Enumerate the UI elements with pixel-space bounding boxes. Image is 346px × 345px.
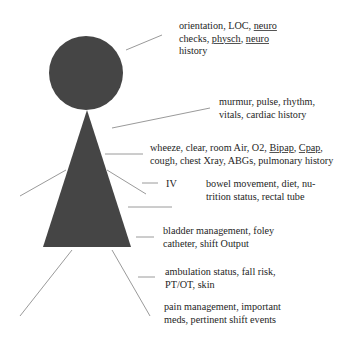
label-text: cough, chest Xray, ABGs, pulmonary histo… (150, 155, 333, 166)
label-text: IV (166, 178, 177, 189)
mobility-label-line: PT/OT, skin (165, 279, 276, 292)
label-text: bladder management, foley (163, 225, 274, 236)
mobility-label-line: ambulation status, fall risk, (165, 266, 276, 279)
pulmonary-label: wheeze, clear, room Air, O2, Bipap, Cpap… (150, 142, 333, 167)
underlined-term: Bipap (269, 142, 293, 153)
label-text: vitals, cardiac history (219, 109, 306, 120)
label-text: pain management, important (164, 301, 281, 312)
stick-figure (0, 0, 346, 345)
label-text: ambulation status, fall risk, (165, 266, 276, 277)
label-text: history (179, 45, 207, 56)
figure-right-leg (112, 250, 150, 316)
gi-label-line: bowel movement, diet, nu- (206, 178, 316, 191)
label-text: PT/OT, skin (165, 279, 215, 290)
label-text: meds, pertinent shift events (164, 314, 276, 325)
pulmonary-label-line: cough, chest Xray, ABGs, pulmonary histo… (150, 155, 333, 168)
cardiac-label-line: vitals, cardiac history (219, 109, 315, 122)
mobility-label: ambulation status, fall risk,PT/OT, skin (165, 266, 276, 291)
gu-label: bladder management, foleycatheter, shift… (163, 225, 274, 250)
figure-right-arm (107, 170, 146, 194)
figure-left-leg (20, 250, 72, 316)
neuro-label: orientation, LOC, neurochecks, physch, n… (179, 20, 277, 58)
cardiac-label: murmur, pulse, rhythm,vitals, cardiac hi… (219, 96, 315, 121)
figure-head (49, 36, 123, 110)
iv-label: IV (166, 178, 177, 191)
leader-line-cardiac (112, 108, 210, 128)
underlined-term: neuro (254, 20, 277, 31)
label-text: murmur, pulse, rhythm, (219, 96, 315, 107)
pulmonary-label-line: wheeze, clear, room Air, O2, Bipap, Cpap… (150, 142, 333, 155)
neuro-label-line: checks, physch, neuro (179, 33, 277, 46)
pain-label-line: meds, pertinent shift events (164, 314, 281, 327)
label-text: orientation, LOC, (179, 20, 254, 31)
underlined-term: physch (212, 33, 241, 44)
body-systems-diagram: orientation, LOC, neurochecks, physch, n… (0, 0, 346, 345)
pain-label: pain management, importantmeds, pertinen… (164, 301, 281, 326)
leader-line-neuro (126, 35, 162, 50)
gi-label: bowel movement, diet, nu-trition status,… (206, 178, 316, 203)
underlined-term: Cpap (299, 142, 321, 153)
gu-label-line: catheter, shift Output (163, 238, 274, 251)
label-text: catheter, shift Output (163, 238, 249, 249)
gi-label-line: trition status, rectal tube (206, 191, 316, 204)
gu-label-line: bladder management, foley (163, 225, 274, 238)
neuro-label-line: history (179, 45, 277, 58)
pain-label-line: pain management, important (164, 301, 281, 314)
figure-left-arm (20, 170, 66, 196)
cardiac-label-line: murmur, pulse, rhythm, (219, 96, 315, 109)
label-text: checks, (179, 33, 212, 44)
iv-label-line: IV (166, 178, 177, 191)
label-text: wheeze, clear, room Air, O2, (150, 142, 269, 153)
underlined-term: neuro (246, 33, 269, 44)
label-text: bowel movement, diet, nu- (206, 178, 316, 189)
figure-torso (43, 110, 131, 247)
label-text: trition status, rectal tube (206, 191, 304, 202)
label-text: , (320, 142, 323, 153)
neuro-label-line: orientation, LOC, neuro (179, 20, 277, 33)
